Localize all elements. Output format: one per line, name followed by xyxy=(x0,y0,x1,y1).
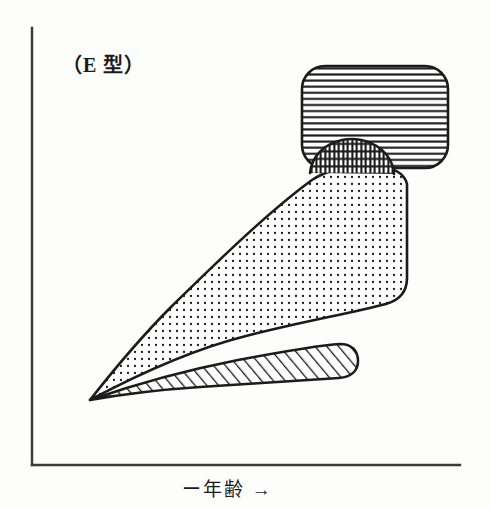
growth-pattern-diagram: （E 型） ー年齢 → xyxy=(0,0,491,507)
x-axis-label: ー年齢 → xyxy=(182,479,273,500)
pattern-type-label: （E 型） xyxy=(62,54,145,76)
figure-container: （E 型） ー年齢 → xyxy=(0,0,491,507)
